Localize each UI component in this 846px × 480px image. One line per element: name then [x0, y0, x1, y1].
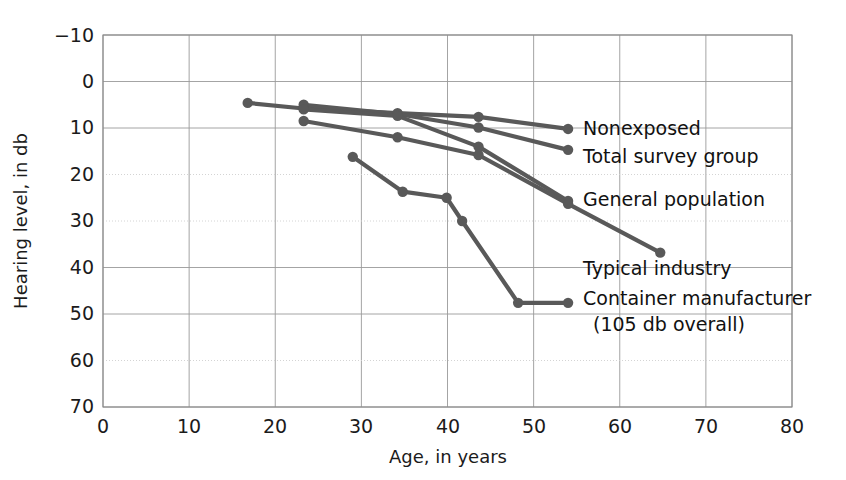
data-point [563, 124, 573, 134]
chart-canvas: −10 0 10 20 30 40 50 60 70 0 10 20 30 40… [0, 0, 846, 480]
data-point [398, 187, 408, 197]
x-tick-60: 60 [608, 415, 632, 437]
data-point [513, 298, 523, 308]
series-label-general-population: General population [583, 188, 765, 210]
y-tick-30: 30 [70, 209, 94, 231]
data-point [473, 150, 483, 160]
data-point [392, 132, 402, 142]
data-point [392, 111, 402, 121]
x-tick-80: 80 [780, 415, 804, 437]
y-tick-20: 20 [70, 163, 94, 185]
x-tick-70: 70 [694, 415, 718, 437]
series-label-nonexposed: Nonexposed [583, 117, 701, 139]
y-tick-60: 60 [70, 349, 94, 371]
data-point [563, 145, 573, 155]
y-axis-title: Hearing level, in db [10, 133, 31, 309]
data-point [473, 122, 483, 132]
y-tick-40: 40 [70, 256, 94, 278]
y-tick-neg10: −10 [54, 24, 94, 46]
data-point [298, 116, 308, 126]
x-tick-50: 50 [522, 415, 546, 437]
y-tick-50: 50 [70, 302, 94, 324]
y-tick-10: 10 [70, 116, 94, 138]
x-tick-40: 40 [436, 415, 460, 437]
x-axis-title: Age, in years [389, 446, 507, 467]
series-label-container-manufacturer: Container manufacturer [583, 287, 811, 309]
data-point [298, 104, 308, 114]
data-point [473, 112, 483, 122]
x-tick-10: 10 [177, 415, 201, 437]
data-point [457, 216, 467, 226]
series-label-total-survey-group: Total survey group [582, 145, 759, 167]
x-tick-30: 30 [349, 415, 373, 437]
y-tick-0: 0 [82, 70, 94, 92]
series-label-typical-industry: Typical industry [582, 257, 731, 279]
data-point [563, 298, 573, 308]
x-tick-20: 20 [263, 415, 287, 437]
data-point [242, 98, 252, 108]
data-point [563, 199, 573, 209]
y-tick-70: 70 [70, 395, 94, 417]
hearing-level-chart: −10 0 10 20 30 40 50 60 70 0 10 20 30 40… [0, 0, 846, 480]
x-tick-0: 0 [97, 415, 109, 437]
series-label-container-sublabel: (105 db overall) [593, 313, 745, 335]
data-point [441, 193, 451, 203]
chart-background [0, 0, 846, 480]
data-point [348, 152, 358, 162]
